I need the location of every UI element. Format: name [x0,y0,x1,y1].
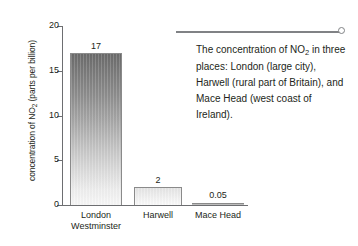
bar-value-london-westminster: 17 [70,41,122,51]
y-tick-label-10: 10 [49,110,59,121]
bar-london-westminster[interactable] [70,53,122,205]
x-category-london-westminster-line2: Westminster [56,221,136,232]
y-axis-title-main: concentration of NO [27,107,37,181]
bar-mace-head[interactable] [192,203,244,205]
bar-texture-london [71,54,121,205]
x-category-london-westminster: London Westminster [56,210,136,232]
annotation-text: The concentration of NO2 in three places… [196,42,348,123]
x-category-harwell-line1: Harwell [132,210,184,221]
y-axis-title: concentration of NO2 (parts per billion) [27,11,38,211]
y-tick-label-20: 20 [49,20,59,31]
y-axis-title-subscript: 2 [31,104,38,108]
y-axis-line [62,26,63,206]
annotation-text-subscript: 2 [305,48,309,57]
bar-texture-harwell [135,188,181,205]
x-category-harwell: Harwell [132,210,184,221]
annotation-leader-endpoint-icon [338,27,345,34]
y-axis-title-tail: (parts per billion) [27,40,37,104]
annotation-leader-line [176,31,340,33]
bar-chart-figure: concentration of NO2 (parts per billion)… [0,0,358,246]
y-tick-label-0: 0 [54,199,59,210]
bar-value-mace-head: 0.05 [190,190,246,200]
x-axis-line [62,205,248,206]
y-tick-label-15: 15 [49,65,59,76]
bar-harwell[interactable] [134,187,182,205]
y-tick-label-5: 5 [54,154,59,165]
x-category-mace-head-line1: Mace Head [186,210,250,221]
x-category-mace-head: Mace Head [186,210,250,221]
annotation-text-post: in three places: London (large city), Ha… [196,44,345,120]
bar-value-harwell: 2 [134,175,182,185]
annotation-text-pre: The concentration of NO [196,44,305,55]
x-category-london-westminster-line1: London [56,210,136,221]
